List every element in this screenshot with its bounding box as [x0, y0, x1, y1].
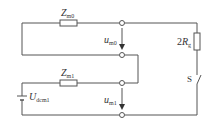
label-zm0: Zm0 — [61, 8, 74, 19]
terminal-4 — [120, 113, 125, 118]
label-zm1: Zm1 — [61, 68, 74, 79]
arrow-um1-head — [119, 104, 125, 110]
resistor-2rg — [194, 33, 200, 50]
resistor-zm0 — [60, 20, 77, 26]
terminal-3 — [120, 81, 125, 86]
arrow-um0-head — [119, 44, 125, 50]
label-switch: S — [187, 75, 192, 84]
resistor-zm1 — [60, 80, 77, 86]
label-um0: um0 — [104, 35, 117, 46]
terminal-2 — [120, 53, 125, 58]
label-um1: um1 — [104, 95, 117, 106]
label-2rg: 2Rg — [177, 37, 191, 48]
label-udcm1: Udcm1 — [29, 92, 50, 103]
circuit-diagram — [0, 0, 214, 126]
switch-blade — [197, 75, 201, 84]
terminal-1 — [120, 21, 125, 26]
